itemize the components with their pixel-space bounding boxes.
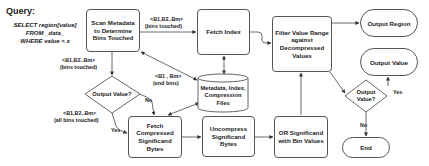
filter-value-node: Filter Value Range against Decompressed …	[272, 16, 332, 72]
query-select-line: SELECT region[value]	[4, 22, 86, 28]
edge-label-bins-b: (bins touched)	[145, 23, 182, 29]
decision-output-value-1: Output Value?	[92, 86, 132, 102]
end-terminal: End	[342, 137, 390, 158]
output-value-terminal: Output Value	[360, 48, 418, 76]
edge-label-dec-a: <B1,B2..Bm>	[62, 57, 95, 63]
scan-metadata-node: Scan Metadata to Determine Bins Touched	[86, 9, 140, 52]
edge-label-yes-1: Yes	[111, 127, 120, 133]
query-title: Query:	[6, 6, 35, 16]
query-where-line: WHERE value < x	[4, 38, 86, 44]
decision-output-value-2: Output Value?	[348, 88, 384, 104]
edge-label-dec-b: (bins touched)	[60, 64, 97, 70]
or-significand-node: OR Significand with Bin Values	[274, 116, 328, 158]
edge-label-all-bins-a: <B1,B2..Bm>	[63, 110, 96, 116]
edge-label-all-bins-b: (all bins touched)	[54, 117, 99, 123]
edge-label-end-bins-b: (end bins)	[153, 80, 179, 86]
metadata-store: Metadata, Index, Compression Files	[198, 84, 248, 108]
edge-label-no-1: No	[145, 97, 152, 103]
edge-label-end-bins-a: <B1 , Bm>	[155, 73, 181, 79]
query-from-line: FROM _data_	[4, 30, 86, 36]
fetch-index-node: Fetch Index	[197, 9, 250, 55]
fetch-compressed-node: Fetch Compressed Significand Bytes	[128, 116, 182, 158]
edge-label-no-2: No	[360, 122, 367, 128]
output-region-terminal: Output Region	[360, 9, 418, 37]
uncompress-node: Uncompress Significand Bytes	[202, 116, 255, 157]
edge-label-yes-2: Yes	[393, 89, 402, 95]
edge-label-bins-a: <B1,B2..Bm>	[150, 16, 183, 22]
